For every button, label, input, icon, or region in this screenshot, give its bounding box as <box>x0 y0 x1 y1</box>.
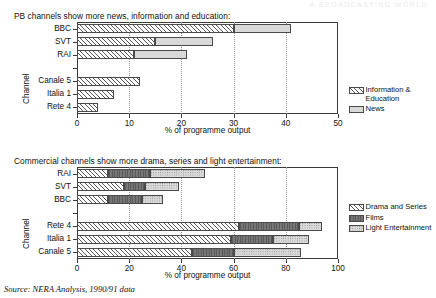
x-axis-title-pb: % of programme output <box>77 126 338 135</box>
legend-swatch-icon <box>349 204 364 211</box>
gridline <box>286 167 287 259</box>
bar-segment <box>108 169 150 178</box>
bar-segment <box>299 222 322 231</box>
legend-item: Light Entertainment <box>349 224 435 233</box>
y-tick-label-rai: RAI <box>1 50 71 59</box>
chart-title-pb: PB channels show more news, information … <box>14 11 230 21</box>
bar-segment <box>234 248 302 257</box>
bar-segment <box>77 235 231 244</box>
bar-segment <box>77 222 239 231</box>
y-tick-label-bbc: BBC <box>1 195 71 204</box>
bar-segment <box>77 77 140 86</box>
legend-label: Information & Education <box>366 86 411 103</box>
x-tick <box>286 259 287 263</box>
legend-item: News <box>349 105 435 114</box>
gridline <box>181 22 182 114</box>
bar-segment <box>77 24 234 33</box>
y-tick-label-canale-5: Canale 5 <box>1 76 71 85</box>
chart-pb-channels: PB channels show more news, information … <box>0 0 436 150</box>
bar-segment <box>145 182 179 191</box>
y-tick <box>73 213 77 214</box>
y-tick-label-rai: RAI <box>1 169 71 178</box>
legend-swatch-icon <box>349 106 364 113</box>
gridline <box>234 167 235 259</box>
chart-title-commercial: Commercial channels show more drama, ser… <box>14 156 282 166</box>
x-tick <box>234 114 235 118</box>
plot-area-pb <box>77 22 338 114</box>
y-tick-label-svt: SVT <box>1 182 71 191</box>
bar-segment <box>77 182 124 191</box>
x-tick <box>286 114 287 118</box>
y-tick <box>73 68 77 69</box>
plot-area-commercial <box>77 167 338 259</box>
bar-segment <box>234 24 291 33</box>
x-tick <box>129 114 130 118</box>
gridline <box>234 22 235 114</box>
y-tick-label-canale-5: Canale 5 <box>1 247 71 256</box>
y-tick-label-svt: SVT <box>1 37 71 46</box>
y-tick-label-bbc: BBC <box>1 24 71 33</box>
bar-segment <box>77 50 134 59</box>
x-axis-title-commercial: % of programme output <box>77 271 338 280</box>
bar-segment <box>124 182 145 191</box>
legend-item: Information & Education <box>349 86 435 103</box>
bar-segment <box>108 195 142 204</box>
legend-label: Light Entertainment <box>366 224 432 233</box>
legend-label: Drama and Series <box>366 203 427 212</box>
bar-segment <box>273 235 310 244</box>
y-axis-title-commercial: Channel <box>22 219 31 250</box>
bar-segment <box>192 248 234 257</box>
legend-pb: Information & EducationNews <box>349 86 435 116</box>
gridline <box>129 167 130 259</box>
x-tick <box>181 259 182 263</box>
y-tick-label-rete-4: Rete 4 <box>1 102 71 111</box>
bar-segment <box>77 37 155 46</box>
x-tick <box>77 259 78 263</box>
y-tick-label-italia-1: Italia 1 <box>1 234 71 243</box>
legend-label: News <box>366 105 385 114</box>
y-tick-label-rete-4: Rete 4 <box>1 221 71 230</box>
x-tick <box>129 259 130 263</box>
x-tick <box>181 114 182 118</box>
bar-segment <box>77 195 108 204</box>
x-tick <box>77 114 78 118</box>
legend-swatch-icon <box>349 215 364 222</box>
x-tick <box>338 114 339 118</box>
x-tick <box>234 259 235 263</box>
chart-commercial-channels: Commercial channels show more drama, ser… <box>0 150 436 298</box>
gridline <box>286 22 287 114</box>
x-tick <box>338 259 339 263</box>
bar-segment <box>155 37 212 46</box>
bar-segment <box>142 195 163 204</box>
y-axis-title-pb: Channel <box>22 74 31 105</box>
bar-segment <box>150 169 205 178</box>
bar-segment <box>77 103 98 112</box>
source-note: Source: NERA Analysis, 1990/91 data <box>4 284 135 294</box>
legend-item: Drama and Series <box>349 203 435 212</box>
bar-segment <box>77 90 114 99</box>
bar-segment <box>231 235 273 244</box>
gridline <box>129 22 130 114</box>
bar-segment <box>134 50 186 59</box>
legend-swatch-icon <box>349 87 364 94</box>
legend-label: Films <box>366 214 384 223</box>
bar-segment <box>77 169 108 178</box>
figure-page: A BROADCASTING WORLD PB channels show mo… <box>0 0 436 298</box>
legend-item: Films <box>349 214 435 223</box>
y-tick-label-italia-1: Italia 1 <box>1 89 71 98</box>
legend-swatch-icon <box>349 225 364 232</box>
bar-segment <box>239 222 299 231</box>
legend-commercial: Drama and SeriesFilmsLight Entertainment <box>349 203 435 235</box>
bar-segment <box>77 248 192 257</box>
gridline <box>181 167 182 259</box>
